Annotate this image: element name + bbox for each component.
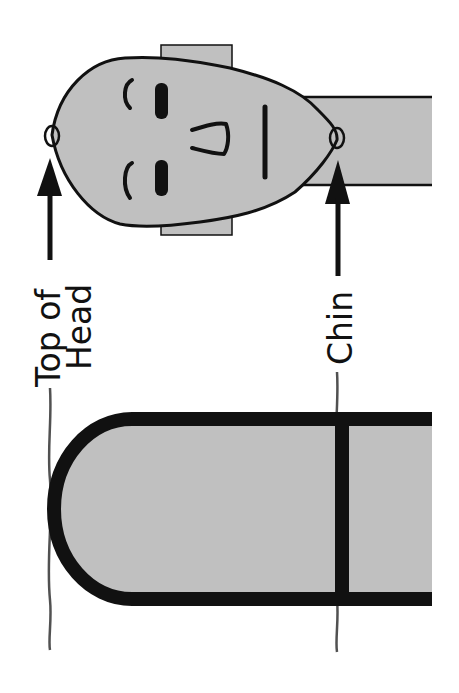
diagram-svg: Top of Head Chin (0, 0, 459, 693)
top-of-head-arrow (37, 158, 62, 260)
diagram-canvas: Top of Head Chin (0, 0, 459, 693)
height-bracket (54, 419, 432, 599)
eye-upper (155, 83, 168, 119)
chin-label: Chin (321, 291, 360, 365)
top-of-head-label-line2: Head (60, 284, 99, 370)
head-outline (52, 57, 337, 226)
eye-lower (155, 160, 168, 196)
